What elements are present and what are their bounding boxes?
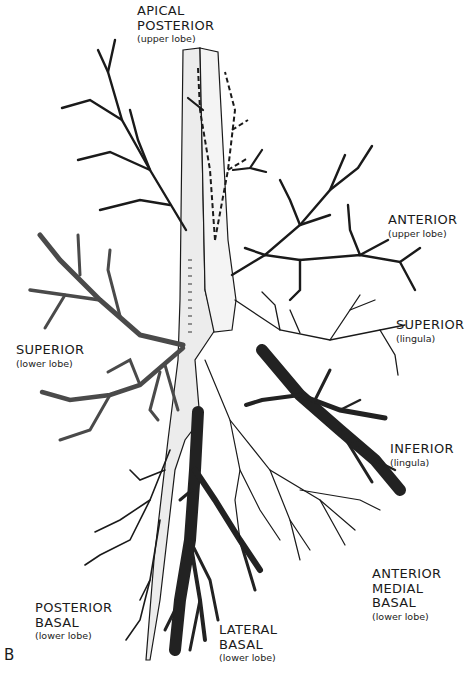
label-apical-posterior: APICAL POSTERIOR (upper lobe): [137, 4, 214, 45]
label-line: INFERIOR: [390, 442, 454, 457]
label-anterior-upper: ANTERIOR (upper lobe): [388, 213, 457, 239]
label-line: SUPERIOR: [396, 318, 464, 333]
label-sublabel: (upper lobe): [137, 34, 214, 45]
apical-posterior-segment: [62, 40, 186, 230]
label-line: BASAL: [219, 638, 277, 653]
label-line: BASAL: [372, 596, 441, 611]
label-sublabel: (lower lobe): [35, 631, 112, 642]
label-inferior-lingula: INFERIOR (lingula): [390, 442, 454, 468]
label-sublabel: (lower lobe): [219, 653, 277, 664]
panel-letter: B: [4, 646, 14, 664]
label-line: LATERAL: [219, 623, 277, 638]
label-line: POSTERIOR: [137, 19, 214, 34]
label-lateral-basal: LATERAL BASAL (lower lobe): [219, 623, 277, 664]
label-line: SUPERIOR: [16, 343, 84, 358]
label-posterior-basal: POSTERIOR BASAL (lower lobe): [35, 601, 112, 642]
superior-lower-lobe-segment: [30, 235, 183, 440]
label-superior-lingula: SUPERIOR (lingula): [396, 318, 464, 344]
label-sublabel: (lingula): [390, 458, 454, 469]
label-line: MEDIAL: [372, 582, 441, 597]
label-line: ANTERIOR: [372, 567, 441, 582]
label-anterior-medial-basal: ANTERIOR MEDIAL BASAL (lower lobe): [372, 567, 441, 622]
label-sublabel: (lower lobe): [16, 359, 84, 370]
label-line: POSTERIOR: [35, 601, 112, 616]
label-sublabel: (upper lobe): [388, 229, 457, 240]
label-line: ANTERIOR: [388, 213, 457, 228]
label-sublabel: (lower lobe): [372, 612, 441, 623]
label-line: APICAL: [137, 4, 214, 19]
label-line: BASAL: [35, 616, 112, 631]
superior-lingula-segment: [235, 292, 405, 375]
label-superior-lower: SUPERIOR (lower lobe): [16, 343, 84, 369]
label-sublabel: (lingula): [396, 334, 464, 345]
